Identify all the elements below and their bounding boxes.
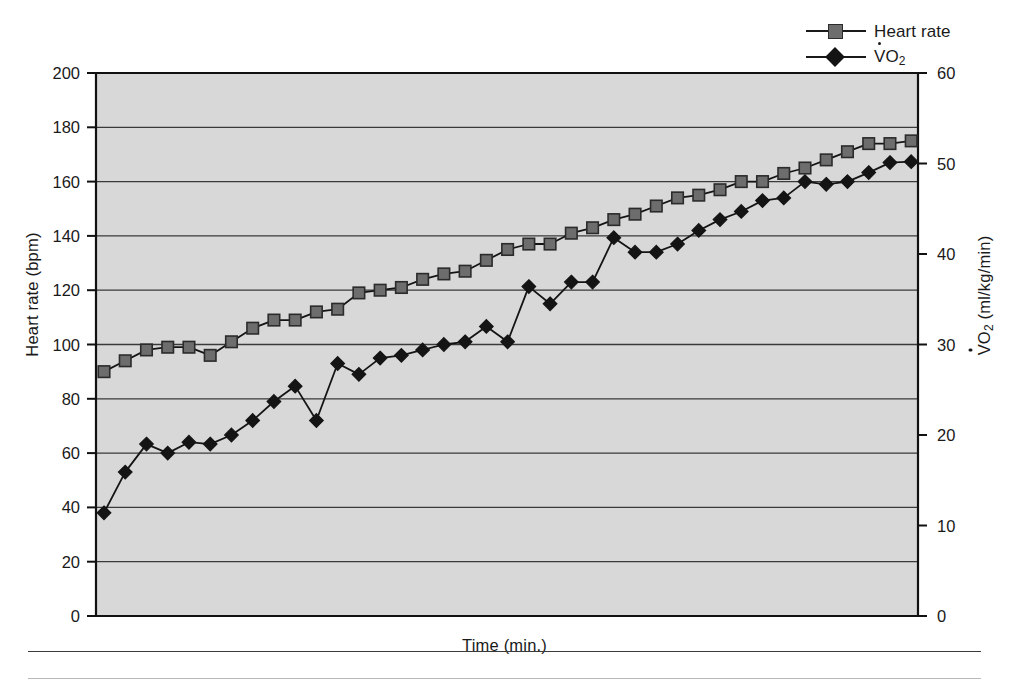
y-axis-left-tick-label: 100 — [24, 337, 80, 354]
chart-plot-area — [0, 0, 1009, 681]
y-axis-left-tick-label: 20 — [24, 554, 80, 571]
legend-vo2-subscript: 2 — [899, 54, 906, 68]
x-axis-title: Time (min.) — [0, 636, 1009, 655]
square-marker-icon — [481, 255, 493, 267]
square-marker-icon — [98, 366, 110, 378]
square-marker-icon — [226, 336, 238, 348]
y-axis-left-tick-label: 140 — [24, 228, 80, 245]
square-marker-icon — [629, 208, 641, 220]
chart-legend: Heart rate VO2 — [806, 18, 1006, 70]
square-marker-icon — [863, 138, 875, 150]
square-marker-icon — [842, 146, 854, 158]
square-marker-icon — [566, 227, 578, 239]
figure-container: Heart rate VO2 Heart rate (bpm) VO2 (ml/… — [0, 0, 1009, 681]
y-axis-right-tick-label: 50 — [937, 156, 993, 173]
figure-divider-bottom — [28, 678, 981, 679]
square-marker-icon — [820, 154, 832, 166]
square-marker-icon — [884, 138, 896, 150]
square-marker-icon — [353, 287, 365, 299]
square-marker-icon — [289, 314, 301, 326]
square-marker-icon — [806, 21, 866, 41]
square-marker-icon — [162, 341, 174, 353]
square-marker-icon — [332, 303, 344, 315]
diamond-marker-icon — [806, 47, 866, 67]
square-marker-icon — [587, 222, 599, 234]
y-axis-right-title-subscript: 2 — [982, 324, 996, 331]
square-marker-icon — [736, 176, 748, 188]
y-axis-right-tick-label: 40 — [937, 246, 993, 263]
y-axis-right-tick-label: 30 — [937, 337, 993, 354]
y-axis-left-tick-label: 120 — [24, 282, 80, 299]
square-marker-icon — [905, 135, 917, 147]
square-marker-icon — [672, 192, 684, 204]
square-marker-icon — [757, 176, 769, 188]
square-marker-icon — [268, 314, 280, 326]
y-axis-left-tick-label: 0 — [24, 608, 80, 625]
square-marker-icon — [204, 350, 216, 362]
y-axis-left-tick-label: 200 — [24, 65, 80, 82]
y-axis-left-tick-label: 80 — [24, 391, 80, 408]
legend-label-heart-rate: Heart rate — [866, 23, 951, 40]
square-marker-icon — [651, 200, 663, 212]
square-marker-icon — [396, 282, 408, 294]
legend-vo2-v: V — [874, 47, 885, 66]
y-axis-right-tick-label: 10 — [937, 518, 993, 535]
square-marker-icon — [119, 355, 131, 367]
square-marker-icon — [374, 284, 386, 296]
square-marker-icon — [183, 341, 195, 353]
y-axis-left-tick-label: 60 — [24, 445, 80, 462]
y-axis-left-tick-label: 180 — [24, 119, 80, 136]
square-marker-icon — [693, 189, 705, 201]
legend-item-heart-rate: Heart rate — [806, 18, 1006, 44]
square-marker-icon — [714, 184, 726, 196]
square-marker-icon — [247, 322, 259, 334]
square-marker-icon — [438, 268, 450, 280]
square-marker-icon — [417, 274, 429, 286]
legend-label-vo2: VO2 — [866, 48, 906, 67]
square-marker-icon — [523, 238, 535, 250]
y-axis-right-title: VO2 (ml/kg/min) — [975, 191, 996, 401]
figure-divider-top — [28, 651, 981, 652]
square-marker-icon — [608, 214, 620, 226]
y-axis-left-tick-label: 160 — [24, 174, 80, 191]
square-marker-icon — [459, 265, 471, 277]
y-axis-right-tick-label: 0 — [937, 608, 993, 625]
y-axis-left-tick-label: 40 — [24, 499, 80, 516]
square-marker-icon — [544, 238, 556, 250]
square-marker-icon — [311, 306, 323, 318]
square-marker-icon — [799, 162, 811, 174]
square-marker-icon — [141, 344, 153, 356]
square-marker-icon — [502, 244, 514, 256]
y-axis-right-tick-label: 60 — [937, 65, 993, 82]
square-marker-icon — [778, 168, 790, 180]
y-axis-right-tick-label: 20 — [937, 427, 993, 444]
